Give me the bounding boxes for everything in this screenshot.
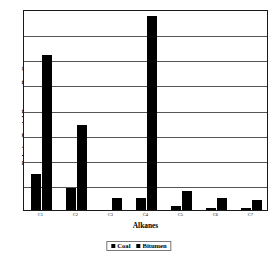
bar-coal-c6 (206, 208, 216, 210)
x-tick-label-c2: C2 (64, 212, 88, 217)
bar-bitumen-c1 (42, 55, 52, 210)
x-tick-label-c1: C1 (29, 212, 53, 217)
x-tick-label-c6: C6 (204, 212, 228, 217)
bar-coal-c1 (31, 174, 41, 210)
bar-bitumen-c2 (77, 125, 87, 210)
x-tick-label-c7: C7 (239, 212, 263, 217)
legend-swatch-icon (137, 244, 141, 248)
x-tick-label-c5: C5 (169, 212, 193, 217)
bar-coal-c2 (66, 188, 76, 210)
bar-bitumen-c6 (217, 198, 227, 210)
plot-area (23, 10, 268, 211)
bar-chart-figure: Relative Partial Pressure Per Gram C1C2C… (0, 0, 278, 264)
bar-coal-c5 (171, 206, 181, 210)
chart-legend: CoalBitumen (106, 241, 171, 251)
bar-bitumen-c3 (112, 198, 122, 210)
bars-group (24, 11, 267, 210)
bar-bitumen-c7 (252, 200, 262, 210)
x-axis-title: Alkanes (23, 221, 268, 230)
bar-bitumen-c4 (147, 16, 157, 210)
x-tick-label-c3: C3 (99, 212, 123, 217)
legend-entry-coal: Coal (111, 243, 130, 250)
legend-entry-bitumen: Bitumen (137, 243, 167, 250)
bar-coal-c7 (241, 208, 251, 210)
bar-coal-c4 (136, 198, 146, 210)
legend-label: Bitumen (143, 243, 167, 250)
x-tick-label-c4: C4 (134, 212, 158, 217)
bar-bitumen-c5 (182, 191, 192, 210)
legend-label: Coal (117, 243, 130, 250)
legend-swatch-icon (111, 244, 115, 248)
